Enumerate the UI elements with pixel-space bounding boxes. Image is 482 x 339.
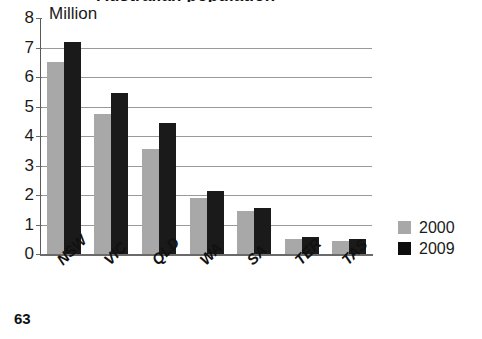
bar xyxy=(190,198,207,254)
legend-label: 2009 xyxy=(419,241,455,257)
bar xyxy=(64,42,81,254)
chart-figure: Australian population Million 012345678 … xyxy=(0,0,482,339)
y-axis-tick-labels: 012345678 xyxy=(0,0,34,339)
y-tick-label: 1 xyxy=(8,216,34,233)
y-tick-label: 7 xyxy=(8,39,34,56)
page-number: 63 xyxy=(14,310,31,327)
bar-group xyxy=(190,18,224,254)
bar-series-container xyxy=(40,18,373,254)
y-tick-label: 3 xyxy=(8,157,34,174)
bar xyxy=(111,93,128,254)
bar-group xyxy=(94,18,128,254)
bar-group xyxy=(142,18,176,254)
y-tick-label: 5 xyxy=(8,98,34,115)
chart-legend: 20002009 xyxy=(398,218,482,260)
bar-group xyxy=(237,18,271,254)
bar xyxy=(94,114,111,254)
legend-item: 2009 xyxy=(398,239,482,258)
bar xyxy=(47,62,64,254)
x-axis-category-labels: NSWVICQLDWASATERTAS xyxy=(40,256,380,306)
legend-swatch xyxy=(398,221,411,234)
legend-swatch xyxy=(398,242,411,255)
chart-title: Australian population xyxy=(0,0,372,2)
bar xyxy=(159,123,176,254)
y-tick-label: 0 xyxy=(8,245,34,262)
legend-label: 2000 xyxy=(419,220,455,236)
y-tick-label: 6 xyxy=(8,68,34,85)
y-tick-label: 8 xyxy=(8,9,34,26)
y-tick-label: 2 xyxy=(8,186,34,203)
legend-item: 2000 xyxy=(398,218,482,237)
bar-group xyxy=(47,18,81,254)
bar-group xyxy=(285,18,319,254)
bar-group xyxy=(332,18,366,254)
y-tick-label: 4 xyxy=(8,127,34,144)
bar xyxy=(142,149,159,254)
